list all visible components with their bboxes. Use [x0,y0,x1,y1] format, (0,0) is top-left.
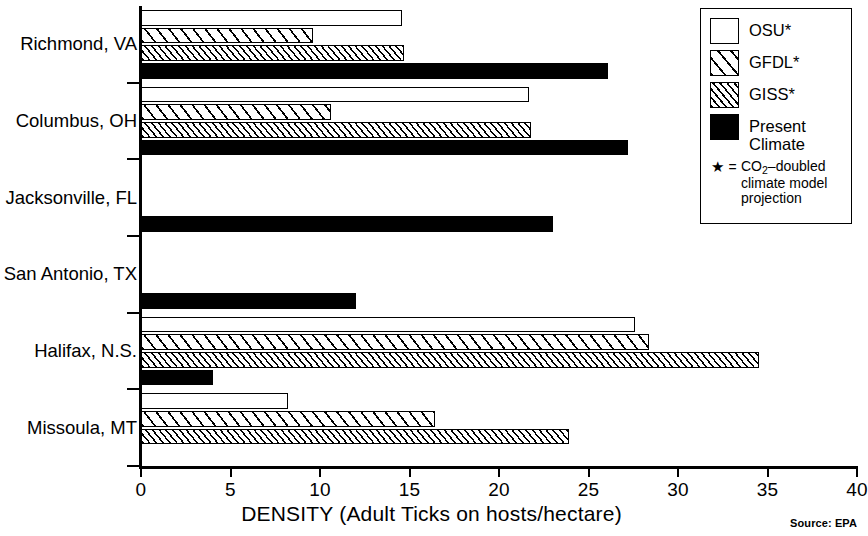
legend-label-osu: OSU* [749,18,791,39]
bar-giss [141,352,759,368]
x-axis-tick [498,466,500,477]
source-credit: Source: EPA [790,517,857,529]
legend-footnote-text: CO2–doubled climate model projection [741,159,827,207]
footnote-co: CO [741,158,762,174]
legend-swatch-present-climate-icon [710,114,739,140]
star-icon: ★ [710,159,724,175]
bar-giss [141,429,569,445]
footnote-doubled: –doubled [768,158,826,174]
x-axis-tick [319,466,321,477]
x-axis-tick [767,466,769,477]
footnote-line2: climate model [741,175,827,191]
bar-osu [141,393,288,409]
legend: OSU* GFDL* GISS* Present Climate ★ = CO2… [700,8,852,224]
bar-gfdl [141,334,649,350]
x-axis-tick [230,466,232,477]
legend-footnote: ★ = CO2–doubled climate model projection [710,159,845,207]
bar-present [141,63,608,79]
x-axis-tick-label: 40 [846,479,868,501]
category-label-missoula-mt: Missoula, MT [27,417,137,439]
legend-label-present-climate-text: Present Climate [749,117,806,153]
legend-item-present-climate: Present Climate [710,114,845,153]
bar-gfdl [141,411,435,427]
x-axis-title: DENSITY (Adult Ticks on hosts/hectare) [0,502,863,526]
bar-gfdl [141,28,313,44]
bar-osu [141,317,635,333]
category-label-san-antonio-tx: San Antonio, TX [4,263,137,285]
bar-present [141,216,553,232]
legend-item-giss: GISS* [710,82,845,108]
category-separator-tick [127,312,141,314]
legend-item-gfdl: GFDL* [710,50,845,76]
bar-present [141,370,213,386]
legend-label-present-climate: Present Climate [749,114,845,153]
x-axis-tick-label: 15 [399,479,421,501]
x-axis-tick-label: 20 [488,479,510,501]
x-axis-tick-label: 25 [578,479,600,501]
category-label-richmond-va: Richmond, VA [20,33,137,55]
x-axis-tick-label: 0 [136,479,147,501]
legend-swatch-giss-icon [710,82,739,108]
x-axis-tick-label: 30 [667,479,689,501]
footnote-subscript: 2 [762,164,768,176]
category-separator-tick [127,388,141,390]
bar-osu [141,87,529,103]
category-label-columbus-oh: Columbus, OH [16,110,137,132]
legend-swatch-osu-icon [710,18,739,44]
footnote-line3: projection [741,190,802,206]
category-separator-tick [127,235,141,237]
category-label-halifax-n-s: Halifax, N.S. [34,340,137,362]
legend-label-giss: GISS* [749,82,795,103]
bar-osu [141,10,402,26]
x-axis-tick-label: 10 [309,479,331,501]
x-axis-tick [588,466,590,477]
category-label-jacksonville-fl: Jacksonville, FL [5,187,137,209]
category-separator-tick [127,82,141,84]
x-axis-tick-label: 5 [225,479,236,501]
x-axis-tick [140,466,142,477]
equals-sign: = [724,159,741,175]
x-axis-tick [677,466,679,477]
x-axis-tick-label: 35 [757,479,779,501]
x-axis-tick [856,466,858,477]
legend-swatch-gfdl-icon [710,50,739,76]
category-separator-tick [127,465,141,467]
legend-label-gfdl: GFDL* [749,50,799,71]
bar-present [141,293,356,309]
bar-gfdl [141,104,331,120]
category-separator-tick [127,158,141,160]
bar-present [141,140,628,156]
legend-item-osu: OSU* [710,18,845,44]
bar-giss [141,45,404,61]
bar-giss [141,122,531,138]
x-axis-tick [409,466,411,477]
